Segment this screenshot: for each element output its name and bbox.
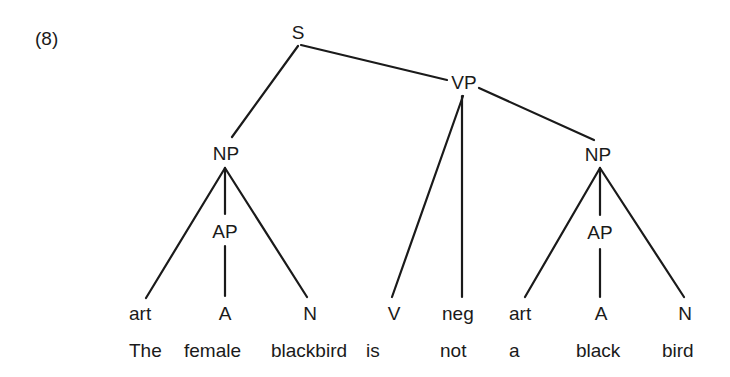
tree-edges: [0, 0, 730, 377]
category-a-2: A: [595, 304, 608, 323]
word-not: not: [440, 341, 466, 360]
node-ap-object: AP: [587, 223, 612, 242]
category-art-2: art: [509, 304, 531, 323]
word-bird: bird: [662, 341, 694, 360]
category-neg: neg: [442, 304, 474, 323]
word-black: black: [576, 341, 620, 360]
category-art-1: art: [129, 304, 151, 323]
word-the: The: [129, 341, 162, 360]
word-is: is: [366, 341, 380, 360]
node-s: S: [292, 23, 305, 42]
category-n-1: N: [303, 304, 317, 323]
word-a: a: [509, 341, 520, 360]
edge-vp-np: [479, 88, 594, 140]
node-ap-subject: AP: [212, 222, 237, 241]
edge-vp-v: [392, 96, 463, 297]
word-female: female: [184, 341, 241, 360]
node-np-object: NP: [585, 145, 611, 164]
node-np-subject: NP: [213, 144, 239, 163]
edge-s-vp: [301, 45, 447, 80]
node-vp: VP: [451, 73, 476, 92]
category-n-2: N: [678, 304, 692, 323]
category-a-1: A: [219, 304, 232, 323]
edge-s-np: [232, 46, 298, 137]
category-v: V: [388, 304, 401, 323]
word-blackbird: blackbird: [271, 341, 347, 360]
